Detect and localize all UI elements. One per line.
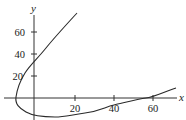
y-axis-label: y [30, 2, 36, 14]
x-tick-label-60: 60 [148, 103, 159, 114]
chart: 20 40 60 20 40 60 x y [0, 0, 186, 120]
y-tick-label-60: 60 [15, 27, 26, 38]
x-axis-label: x [178, 91, 184, 103]
curve-series [16, 13, 176, 117]
x-tick-label-20: 20 [70, 103, 81, 114]
y-tick-label-40: 40 [15, 49, 26, 60]
